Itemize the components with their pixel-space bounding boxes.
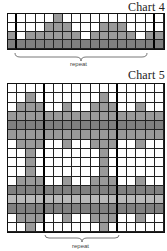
chart-cell	[155, 23, 164, 32]
chart-cell	[127, 214, 136, 223]
chart-cell	[81, 121, 90, 130]
chart-cell	[17, 140, 26, 149]
chart-cell	[36, 103, 45, 112]
chart-cell	[146, 149, 155, 158]
chart-cell	[45, 14, 54, 23]
chart-cell	[136, 149, 145, 158]
chart-cell	[17, 130, 26, 139]
chart-cell	[26, 140, 35, 149]
chart-cell	[118, 112, 127, 121]
chart-cell	[109, 40, 118, 49]
chart-cell	[91, 93, 100, 102]
chart-cell	[109, 103, 118, 112]
chart-cell	[63, 121, 72, 130]
chart-5-repeat-label: repeat	[72, 243, 89, 249]
chart-cell	[109, 130, 118, 139]
chart-cell	[100, 186, 109, 195]
chart-cell	[127, 195, 136, 204]
chart-cell	[109, 214, 118, 223]
chart-cell	[146, 214, 155, 223]
chart-cell	[63, 167, 72, 176]
chart-cell	[17, 103, 26, 112]
chart-cell	[26, 32, 35, 41]
chart-cell	[155, 130, 164, 139]
chart-cell	[54, 112, 63, 121]
chart-cell	[54, 140, 63, 149]
chart-cell	[63, 23, 72, 32]
chart-cell	[136, 121, 145, 130]
chart-cell	[72, 32, 81, 41]
chart-cell	[36, 177, 45, 186]
chart-cell	[81, 112, 90, 121]
chart-cell	[8, 167, 17, 176]
chart-cell	[63, 14, 72, 23]
chart-cell	[36, 112, 45, 121]
chart-cell	[91, 103, 100, 112]
chart-cell	[155, 186, 164, 195]
chart-cell	[45, 214, 54, 223]
chart-cell	[8, 121, 17, 130]
chart-cell	[118, 93, 127, 102]
chart-4-repeat-label: repeat	[70, 61, 87, 67]
chart-cell	[36, 167, 45, 176]
chart-cell	[146, 14, 155, 23]
chart-cell	[109, 140, 118, 149]
chart-cell	[54, 177, 63, 186]
chart-cell	[81, 93, 90, 102]
chart-cell	[45, 177, 54, 186]
chart-cell	[54, 121, 63, 130]
chart-cell	[100, 177, 109, 186]
chart-cell	[45, 130, 54, 139]
chart-cell	[26, 223, 35, 232]
chart-cell	[72, 167, 81, 176]
chart-cell	[146, 130, 155, 139]
chart-cell	[26, 112, 35, 121]
chart-cell	[17, 112, 26, 121]
chart-cell	[155, 177, 164, 186]
chart-cell	[72, 149, 81, 158]
chart-cell	[72, 223, 81, 232]
chart-cell	[136, 158, 145, 167]
chart-cell	[63, 195, 72, 204]
chart-cell	[127, 23, 136, 32]
chart-cell	[72, 93, 81, 102]
chart-cell	[63, 149, 72, 158]
chart-cell	[146, 84, 155, 93]
chart-cell	[146, 177, 155, 186]
chart-cell	[81, 214, 90, 223]
chart-cell	[155, 103, 164, 112]
chart-cell	[26, 167, 35, 176]
chart-cell	[81, 14, 90, 23]
chart-cell	[17, 84, 26, 93]
chart-cell	[72, 195, 81, 204]
chart-cell	[109, 158, 118, 167]
chart-cell	[155, 204, 164, 213]
chart-cell	[26, 23, 35, 32]
chart-cell	[72, 121, 81, 130]
chart-cell	[91, 23, 100, 32]
chart-cell	[36, 204, 45, 213]
chart-cell	[155, 14, 164, 23]
chart-cell	[100, 167, 109, 176]
chart-cell	[45, 158, 54, 167]
chart-cell	[127, 223, 136, 232]
chart-cell	[45, 167, 54, 176]
chart-cell	[136, 177, 145, 186]
chart-cell	[109, 149, 118, 158]
chart-cell	[63, 40, 72, 49]
chart-cell	[109, 112, 118, 121]
chart-cell	[127, 204, 136, 213]
chart-cell	[136, 195, 145, 204]
chart-cell	[109, 23, 118, 32]
chart-cell	[155, 214, 164, 223]
chart-cell	[91, 130, 100, 139]
chart-cell	[45, 121, 54, 130]
chart-cell	[81, 40, 90, 49]
chart-cell	[8, 204, 17, 213]
chart-cell	[127, 93, 136, 102]
chart-cell	[127, 149, 136, 158]
chart-cell	[8, 158, 17, 167]
chart-cell	[100, 84, 109, 93]
chart-cell	[109, 204, 118, 213]
chart-cell	[155, 140, 164, 149]
